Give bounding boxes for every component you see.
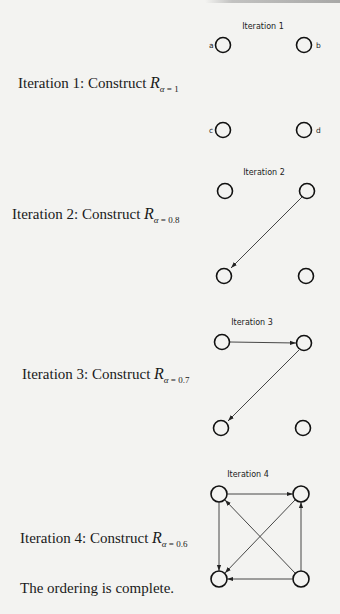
graph-title: Iteration 3 — [231, 318, 273, 327]
node-b — [297, 38, 312, 53]
node-label-a: a — [209, 41, 214, 50]
node-a — [211, 486, 227, 502]
node-label-c: c — [209, 126, 213, 135]
graph-iteration-2: Iteration 2 — [217, 168, 315, 284]
node-a — [216, 38, 231, 53]
node-c — [214, 421, 229, 436]
node-b — [297, 336, 312, 351]
edge-b-to-c — [228, 350, 299, 421]
node-b — [300, 184, 315, 199]
node-d — [299, 269, 314, 284]
node-label-b: b — [316, 41, 321, 50]
node-d — [297, 123, 312, 138]
graph-iteration-3: Iteration 3 — [214, 318, 312, 436]
node-d — [293, 571, 309, 587]
node-d — [296, 421, 311, 436]
node-a — [218, 184, 233, 199]
node-c — [217, 269, 232, 284]
iteration-graphs: Iteration 1 a b c d Iteration 2 Iteratio… — [0, 0, 340, 614]
node-c — [216, 123, 231, 138]
graph-title: Iteration 1 — [242, 22, 284, 31]
graph-title: Iteration 2 — [243, 168, 285, 177]
graph-iteration-1: Iteration 1 a b c d — [209, 22, 321, 138]
node-b — [293, 486, 309, 502]
node-label-d: d — [316, 126, 321, 135]
graph-iteration-4: Iteration 4 — [211, 470, 309, 587]
edge-a-to-b — [230, 342, 296, 343]
edge-b-to-c — [231, 197, 302, 268]
node-a — [215, 335, 230, 350]
node-c — [211, 571, 227, 587]
graph-title: Iteration 4 — [227, 470, 269, 479]
